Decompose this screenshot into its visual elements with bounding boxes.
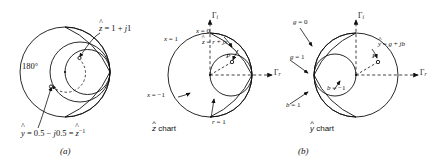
- panel-b-right-chart-name: y chart: [310, 125, 334, 133]
- panel-b-right-y-formula-label: y = g + jb: [378, 41, 405, 48]
- panel-b-left-point-p-label: P: [226, 53, 230, 60]
- panel-b-right-gamma-i-label: Γi: [358, 12, 364, 20]
- panel-b-left-r-one-label: r = 1: [212, 119, 226, 126]
- panel-b-left-xm1-leader: [178, 93, 190, 97]
- panel-b-left-gamma-r-label: Γr: [274, 69, 281, 77]
- panel-b-left-x-minus-one-label: x = −1: [147, 92, 165, 99]
- panel-b-left-x-one-label: x = 1: [164, 36, 178, 43]
- panel-b-right-radius-vector: [356, 62, 378, 75]
- panel-b-right-g0-leader: [300, 28, 312, 46]
- panel-a-drawing: [20, 27, 110, 128]
- panel-a-angle-label: 180°: [22, 62, 38, 71]
- panel-a-rotation-arc: [52, 59, 86, 93]
- panel-a-center-marker: [64, 71, 66, 73]
- panel-a-z-point-marker: [78, 56, 81, 59]
- panel-b-right-drawing: [290, 20, 418, 117]
- panel-b-left-gamma-i-label: Γi: [212, 12, 218, 20]
- panel-a-y-leader: [38, 87, 52, 128]
- panel-b-right-center-marker: [355, 74, 357, 76]
- panel-b-right-point-p-marker: [376, 60, 379, 63]
- panel-b-right-point-p-label: P: [372, 53, 376, 60]
- panel-a-caption: (a): [60, 146, 71, 156]
- figure-vector-drawing: [0, 0, 436, 163]
- smith-chart-figure: z = 1 + j1 180° y = 0.5 − j0.5 = z−1 (a)…: [0, 0, 436, 163]
- panel-b-left-z-formula-label: z = r + jx: [202, 39, 227, 46]
- panel-a-y-point-label: y = 0.5 − j0.5 = z−1: [21, 128, 85, 137]
- panel-b-left-drawing: [168, 20, 272, 118]
- panel-b-right-gamma-r-label: Γr: [420, 69, 427, 77]
- panel-a-y-point-marker: [49, 85, 52, 88]
- panel-b-left-point-p-marker: [230, 60, 233, 63]
- panel-a-r1-circle: [65, 50, 110, 95]
- panel-b-right-g-one-label: g = 1: [290, 54, 304, 61]
- panel-b-right-g0b-leader: [290, 60, 308, 73]
- panel-b-right-g-zero-label: g = 0: [293, 19, 307, 26]
- panel-b-left-chart-name: z chart: [152, 125, 176, 133]
- panel-b-left-center-marker: [209, 74, 211, 76]
- panel-b-right-b-one-label: b = 1: [286, 102, 300, 109]
- panel-b-right-b-minus-one-label: b = −1: [327, 85, 345, 92]
- panel-a-z-leader: [80, 33, 101, 57]
- panel-a-z-point-label: z = 1 + j1: [99, 24, 131, 33]
- panel-b-caption: (b): [298, 146, 309, 156]
